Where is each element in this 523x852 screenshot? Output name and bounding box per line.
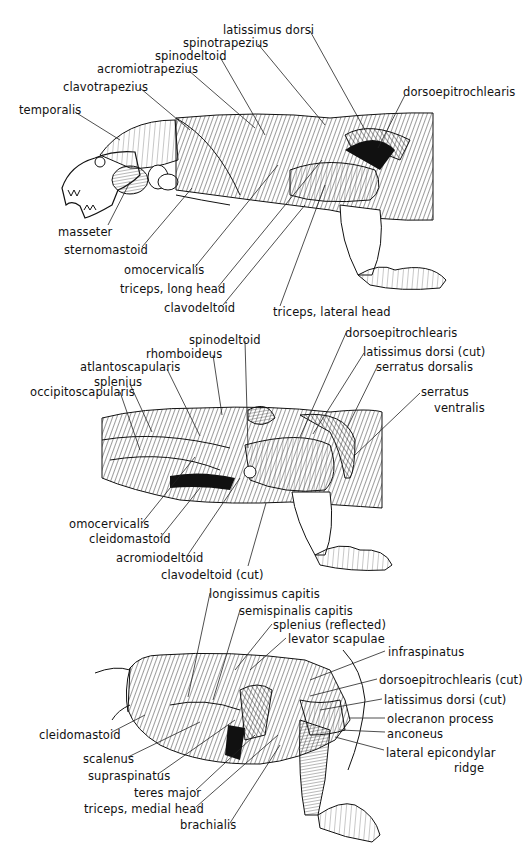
label-serratus: serratus [421, 386, 469, 399]
label-latissimus-dorsi-cut: latissimus dorsi (cut) [384, 694, 506, 707]
label-omocervicalis: omocervicalis [124, 264, 204, 277]
label-acromiotrapezius: acromiotrapezius [97, 63, 198, 76]
label-clavodeltoid: clavodeltoid [164, 302, 235, 315]
label-sternomastoid: sternomastoid [64, 244, 148, 257]
label-spinodeltoid: spinodeltoid [189, 334, 261, 347]
label-temporalis: temporalis [19, 104, 81, 117]
label-scalenus: scalenus [83, 753, 134, 766]
label-dorsoepitrochlearis: dorsoepitrochlearis [403, 86, 515, 99]
label-triceps-medial-head: triceps, medial head [84, 803, 204, 816]
label-clavotrapezius: clavotrapezius [63, 81, 148, 94]
label-latissimus-dorsi-cut: latissimus dorsi (cut) [363, 346, 485, 359]
label-acromiodeltoid: acromiodeltoid [116, 552, 203, 565]
label-omocervicalis: omocervicalis [69, 518, 149, 531]
label-clavodeltoid-cut: clavodeltoid (cut) [161, 569, 264, 582]
label-serratus-dorsalis: serratus dorsalis [376, 361, 473, 374]
label-lateral-epicondylar: lateral epicondylar [386, 747, 496, 760]
label-masseter: masseter [58, 226, 112, 239]
label-dorsoepitrochlearis: dorsoepitrochlearis [345, 327, 457, 340]
label-longissimus-capitis: longissimus capitis [209, 588, 320, 601]
label-supraspinatus: supraspinatus [88, 770, 170, 783]
label-occipitoscapularis: occipitoscapularis [30, 386, 135, 399]
label-ventralis: ventralis [434, 402, 485, 415]
label-atlantoscapularis: atlantoscapularis [80, 361, 180, 374]
label-cleidomastoid: cleidomastoid [39, 729, 121, 742]
label-olecranon-process: olecranon process [387, 713, 494, 726]
label-dorsoepitrochlearis-cut: dorsoepitrochlearis (cut) [379, 674, 523, 687]
label-levator-scapulae: levator scapulae [288, 633, 385, 646]
label-infraspinatus: infraspinatus [388, 646, 464, 659]
label-brachialis: brachialis [180, 819, 236, 832]
label-teres-major: teres major [134, 787, 201, 800]
label-semispinalis-capitis: semispinalis capitis [239, 605, 353, 618]
label-triceps-long-head: triceps, long head [120, 283, 225, 296]
label-ridge: ridge [454, 762, 484, 775]
label-cleidomastoid: cleidomastoid [89, 533, 171, 546]
label-triceps-lateral-head: triceps, lateral head [273, 306, 391, 319]
label-anconeus: anconeus [387, 728, 443, 741]
label-splenius-reflected: splenius (reflected) [273, 619, 386, 632]
